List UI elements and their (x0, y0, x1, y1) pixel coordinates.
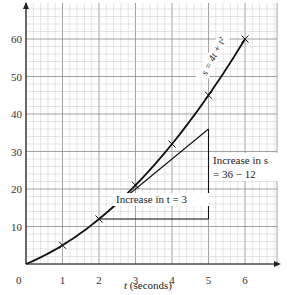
y-tick-label: 20 (11, 183, 23, 195)
x-tick-label: 5 (206, 274, 212, 286)
data-point-markers (59, 36, 249, 249)
x-tick-label: 6 (242, 274, 248, 286)
increase-s-annotation: Increase in s = 36 − 12 (211, 153, 279, 181)
x-tick-label: 2 (96, 274, 102, 286)
y-tick-label: 10 (11, 221, 23, 233)
x-tick-label: 1 (60, 274, 66, 286)
y-tick-label: 30 (11, 146, 23, 158)
y-tick-label: 40 (11, 108, 23, 120)
y-tick-label: 60 (11, 33, 23, 45)
increase-t-annotation: Increase in t = 3 (113, 193, 209, 206)
increase-s-label-line2: = 36 − 12 (213, 168, 256, 180)
distance-time-chart: 123456102030405060 s = 4t + t² Increase … (0, 0, 287, 295)
y-tick-label: 50 (11, 71, 23, 83)
origin-label: 0 (16, 274, 22, 286)
increase-t-label: Increase in t = 3 (116, 193, 187, 205)
increase-s-label-line1: Increase in s (213, 154, 268, 166)
x-axis-title: t (seconds) (124, 279, 172, 292)
curve-equation-label: s = 4t + t² (198, 35, 227, 77)
grid (26, 3, 277, 264)
